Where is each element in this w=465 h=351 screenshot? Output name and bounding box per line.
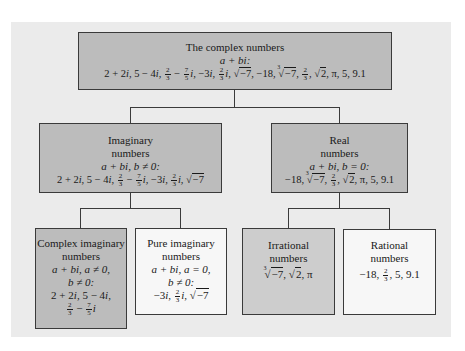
connector-real-vertical [339,192,340,208]
node-label: Rational [344,239,435,252]
node-form: a + bi, b = 0: [272,160,407,173]
node-form-2: b ≠ 0: [36,276,126,289]
node-rational-numbers: Rational numbers −18, 23, 5, 9.1 [343,229,436,315]
connector-imaginary-horizontal [80,208,181,209]
node-label-2: numbers [272,147,407,160]
node-label: The complex numbers [79,41,391,54]
node-label-2: numbers [344,252,435,265]
node-form: a + bi, b ≠ 0: [40,160,221,173]
node-examples: −18, 3√−7, 23, √2, π, 5, 9.1 [272,173,407,188]
connector-to-pure-imaginary [180,208,181,228]
connector-real-horizontal [288,208,390,209]
node-form: a + bi, a ≠ 0, [36,263,126,276]
node-label-2: numbers [243,252,334,265]
node-real-numbers: Real numbers a + bi, b = 0: −18, 3√−7, 2… [271,123,408,193]
connector-to-rational [389,208,390,229]
node-label-2: numbers [136,250,226,263]
node-label: Pure imaginary [136,237,226,250]
node-examples: 2 + 2i, 5 − 4i, 23 − 75i, −3i, 23i, √−7,… [79,67,391,82]
node-examples: −3i, 23i, √−7 [136,289,226,304]
connector-imaginary-vertical [130,192,131,208]
node-examples: −18, 23, 5, 9.1 [344,268,435,283]
node-label-2: numbers [36,250,126,263]
node-label: Complex imaginary [36,237,126,250]
node-examples: 3√−7, √2, π [243,268,334,281]
node-complex-numbers: The complex numbers a + bi: 2 + 2i, 5 − … [78,32,392,90]
node-irrational-numbers: Irrational numbers 3√−7, √2, π [242,228,335,315]
connector-root-horizontal [130,107,340,108]
node-imaginary-numbers: Imaginary numbers a + bi, b ≠ 0: 2 + 2i,… [39,123,222,193]
connector-to-real [339,107,340,123]
node-examples-2: 23 − 75i [36,302,126,317]
node-label: Real [272,134,407,147]
node-pure-imaginary-numbers: Pure imaginary numbers a + bi, a = 0, b … [135,228,227,315]
node-form: a + bi, a = 0, [136,263,226,276]
node-label: Irrational [243,239,334,252]
node-label-2: numbers [40,147,221,160]
node-form: a + bi: [79,54,391,67]
node-examples: 2 + 2i, 5 − 4i, 23 − 75i, −3i, 23i, √−7 [40,173,221,188]
node-form-2: b ≠ 0: [136,276,226,289]
connector-to-imaginary [130,107,131,123]
node-examples: 2 + 2i, 5 − 4i, [36,289,126,302]
node-complex-imaginary-numbers: Complex imaginary numbers a + bi, a ≠ 0,… [35,228,127,329]
node-label: Imaginary [40,134,221,147]
connector-to-complex-imaginary [80,208,81,228]
connector-to-irrational [288,208,289,228]
connector-root-vertical [234,89,235,107]
